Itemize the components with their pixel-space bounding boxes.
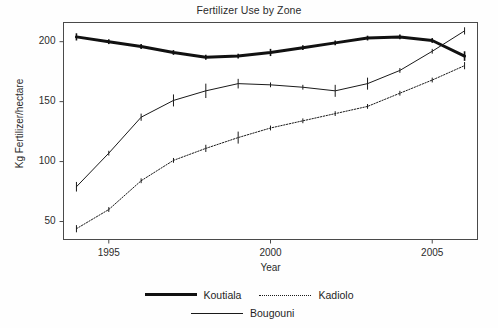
x-tick-label: 2000 — [249, 247, 293, 258]
legend-label: Bougouni — [250, 307, 294, 319]
y-tick-label: 100 — [22, 155, 56, 166]
legend-label: Kadiolo — [318, 289, 353, 301]
legend-item-koutiala[interactable]: Koutiala — [145, 289, 242, 301]
x-tick-label: 2005 — [410, 247, 454, 258]
legend-line-swatch — [191, 307, 243, 318]
y-tick-label: 50 — [22, 215, 56, 226]
legend-line-swatch — [259, 289, 311, 300]
chart-figure: Fertilizer Use by Zone Kg Fertilizer/hec… — [0, 0, 498, 328]
legend-row: Bougouni — [0, 304, 498, 321]
x-axis-ticks — [109, 240, 432, 244]
legend-item-bougouni[interactable]: Bougouni — [191, 307, 294, 319]
legend-label: Koutiala — [204, 289, 242, 301]
y-axis-ticks — [60, 42, 64, 222]
y-tick-label: 200 — [22, 35, 56, 46]
legend-line-swatch — [145, 289, 197, 300]
legend-item-kadiolo[interactable]: Kadiolo — [259, 289, 353, 301]
legend-row: KoutialaKadiolo — [0, 286, 498, 303]
plot-area — [0, 0, 498, 328]
x-tick-label: 1995 — [87, 247, 131, 258]
y-tick-label: 150 — [22, 95, 56, 106]
